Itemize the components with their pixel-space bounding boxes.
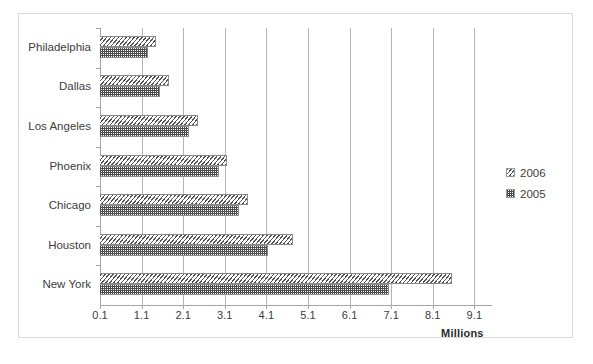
category-label-houston: Houston: [19, 239, 91, 251]
chart-frame: 0.11.12.13.14.15.16.17.18.19.1 Philadelp…: [18, 13, 573, 338]
category-label-new-york: New York: [19, 278, 91, 290]
gridline: [474, 28, 475, 305]
x-axis-tick-label: 5.1: [288, 309, 328, 321]
category-label-dallas: Dallas: [19, 80, 91, 92]
bar-2006-phoenix: [100, 155, 227, 166]
legend-item-2005[interactable]: 2005: [506, 183, 568, 204]
bar-2005-new-york: [100, 284, 389, 295]
bar-2005-philadelphia: [100, 47, 148, 58]
x-axis-tick-label: 9.1: [454, 309, 494, 321]
y-axis-tick: [96, 265, 100, 266]
chart-legend: 20062005: [506, 162, 568, 204]
legend-label: 2005: [520, 188, 546, 200]
gridline: [433, 28, 434, 305]
gridline: [308, 28, 309, 305]
bar-2005-phoenix: [100, 166, 219, 177]
plot-area: 0.11.12.13.14.15.16.17.18.19.1 Philadelp…: [19, 14, 574, 339]
y-axis-tick: [96, 186, 100, 187]
category-label-philadelphia: Philadelphia: [19, 41, 91, 53]
diagonal-hatch-swatch: [506, 168, 515, 177]
y-axis-tick: [96, 68, 100, 69]
y-axis-tick: [96, 226, 100, 227]
y-axis-tick: [96, 107, 100, 108]
checkered-dots-swatch: [506, 189, 515, 198]
x-axis-tick-label: 2.1: [163, 309, 203, 321]
legend-item-2006[interactable]: 2006: [506, 162, 568, 183]
gridline: [391, 28, 392, 305]
x-axis-tick-label: 0.1: [80, 309, 120, 321]
x-axis-tick-label: 3.1: [205, 309, 245, 321]
category-label-chicago: Chicago: [19, 199, 91, 211]
bar-2005-los-angeles: [100, 126, 189, 137]
y-axis-tick: [96, 28, 100, 29]
bar-2006-chicago: [100, 194, 248, 205]
gridline: [225, 28, 226, 305]
bar-2006-houston: [100, 234, 293, 245]
gridline: [350, 28, 351, 305]
bar-2006-new-york: [100, 273, 452, 284]
legend-label: 2006: [520, 167, 546, 179]
bar-2005-dallas: [100, 86, 160, 97]
bar-2005-chicago: [100, 205, 239, 216]
gridline: [266, 28, 267, 305]
bar-2006-dallas: [100, 75, 169, 86]
x-axis-tick-label: 1.1: [122, 309, 162, 321]
y-axis-tick: [96, 147, 100, 148]
category-label-los-angeles: Los Angeles: [19, 120, 91, 132]
bar-2005-houston: [100, 245, 268, 256]
category-label-phoenix: Phoenix: [19, 160, 91, 172]
x-axis-tick-label: 8.1: [413, 309, 453, 321]
x-axis-tick-label: 7.1: [371, 309, 411, 321]
x-axis-title: Millions: [441, 327, 484, 339]
x-axis-tick-label: 6.1: [330, 309, 370, 321]
bar-2006-los-angeles: [100, 115, 198, 126]
x-axis-tick-label: 4.1: [246, 309, 286, 321]
bar-2006-philadelphia: [100, 36, 156, 47]
